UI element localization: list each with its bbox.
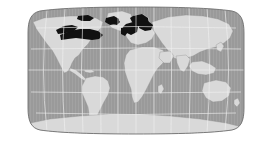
world-map-figure: World map Robinson (0, 0, 272, 145)
world-map-canvas (0, 0, 272, 145)
